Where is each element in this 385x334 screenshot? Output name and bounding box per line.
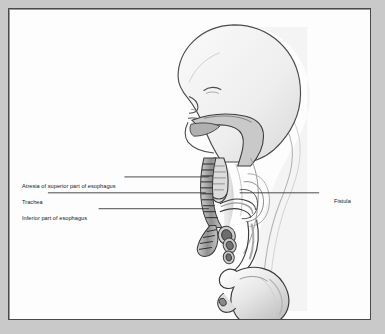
anatomical-illustration — [9, 9, 370, 319]
bronchus-rings-perspective — [215, 224, 238, 255]
label-inferior-part-of-esophagus: Inferior part of esophagus — [22, 216, 87, 222]
fetal-head — [178, 25, 300, 162]
label-trachea: Trachea — [22, 200, 43, 206]
figure-frame: Atresia of superior part of esophagus Tr… — [8, 8, 371, 320]
label-fistula: Fistula — [334, 199, 351, 205]
label-atresia-of-superior-part-of-esophagus: Atresia of superior part of esophagus — [22, 184, 116, 190]
bronchi — [197, 224, 238, 257]
